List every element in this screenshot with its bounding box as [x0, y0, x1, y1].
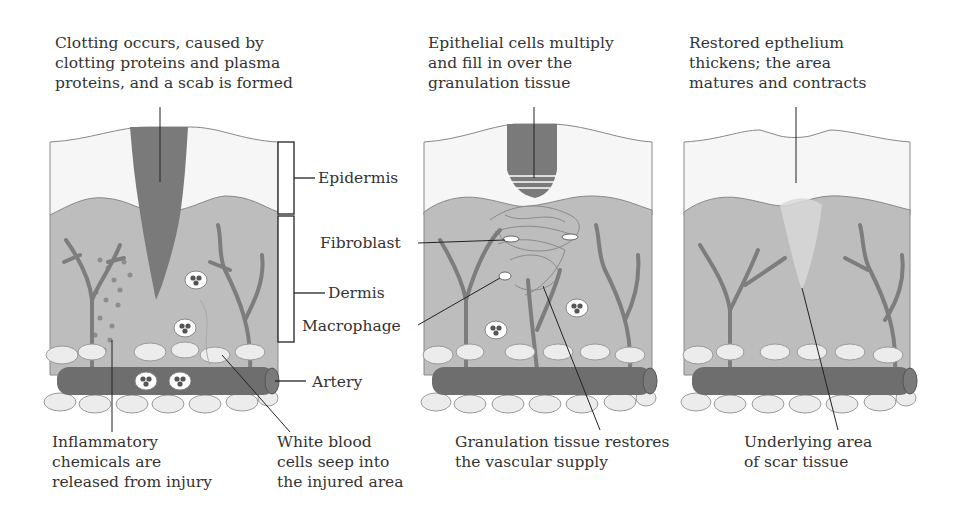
- panel-stage-2: [418, 107, 657, 430]
- caption-granulation: Granulation tissue restores the vascular…: [455, 432, 669, 472]
- caption-scar-tissue: Underlying area of scar tissue: [744, 432, 872, 472]
- panel-stage-3: [681, 107, 917, 430]
- fibroblast-cell: [503, 236, 519, 242]
- caption-stage-2-top: Epithelial cells multiply and fill in ov…: [428, 33, 614, 93]
- caption-stage-3-top: Restored epthelium thickens; the area ma…: [689, 33, 866, 93]
- caption-inflammatory: Inflammatory chemicals are released from…: [52, 432, 212, 492]
- label-dermis: Dermis: [328, 283, 385, 303]
- label-fibroblast: Fibroblast: [320, 233, 401, 253]
- caption-white-blood-cells: White blood cells seep into the injured …: [277, 432, 404, 492]
- artery-1: [57, 367, 275, 395]
- label-artery: Artery: [312, 372, 362, 392]
- label-macrophage: Macrophage: [302, 316, 401, 336]
- caption-stage-1-top: Clotting occurs, caused by clotting prot…: [55, 33, 293, 93]
- panel-stage-1: [44, 107, 325, 432]
- label-epidermis: Epidermis: [318, 168, 398, 188]
- macrophage-cell: [499, 272, 511, 280]
